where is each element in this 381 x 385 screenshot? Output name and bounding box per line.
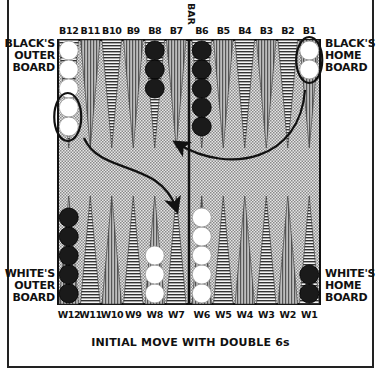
black-checker: [59, 208, 78, 227]
black-checker: [59, 284, 78, 303]
white-checker: [300, 60, 319, 79]
black-checker: [192, 98, 211, 117]
white-checker: [59, 98, 78, 117]
caption: INITIAL MOVE WITH DOUBLE 6s: [0, 336, 381, 349]
black-checker: [192, 79, 211, 98]
black-checker: [59, 265, 78, 284]
black-checker: [145, 79, 164, 98]
white-checker: [145, 265, 164, 284]
black-checker: [192, 41, 211, 60]
white-checker: [59, 60, 78, 79]
white-checker: [145, 246, 164, 265]
black-checker: [59, 227, 78, 246]
black-checker: [145, 41, 164, 60]
black-checker: [145, 60, 164, 79]
white-checker: [192, 227, 211, 246]
black-checker: [300, 265, 319, 284]
board-surface: [58, 40, 320, 304]
white-checker: [192, 246, 211, 265]
white-checker: [192, 265, 211, 284]
white-checker: [192, 284, 211, 303]
white-checker: [145, 284, 164, 303]
black-checker: [300, 284, 319, 303]
white-checker: [192, 208, 211, 227]
black-checker: [192, 60, 211, 79]
black-checker: [59, 246, 78, 265]
white-checker: [300, 41, 319, 60]
white-checker: [59, 117, 78, 136]
white-checker: [59, 41, 78, 60]
backgammon-board: [0, 0, 381, 385]
black-checker: [192, 117, 211, 136]
